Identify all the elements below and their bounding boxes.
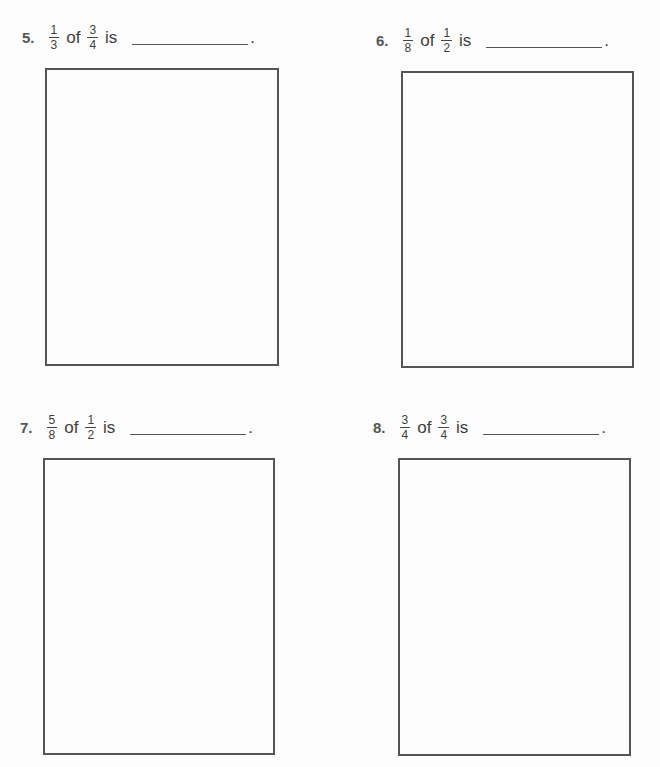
fraction-a: 18 bbox=[403, 27, 414, 54]
fraction-a: 34 bbox=[400, 414, 411, 441]
problem-8-prompt: 8. 34 of 34 is . bbox=[373, 414, 606, 441]
answer-blank[interactable] bbox=[483, 420, 599, 435]
fraction-b: 12 bbox=[85, 414, 96, 441]
problem-number: 8. bbox=[373, 419, 386, 436]
fraction-b: 12 bbox=[441, 27, 452, 54]
answer-blank[interactable] bbox=[130, 420, 246, 435]
fraction-b: 34 bbox=[87, 24, 98, 51]
problem-number: 5. bbox=[22, 29, 35, 46]
drawing-box[interactable] bbox=[401, 71, 634, 368]
problem-number: 6. bbox=[376, 32, 389, 49]
fraction-a: 58 bbox=[47, 414, 58, 441]
answer-blank[interactable] bbox=[132, 30, 248, 45]
drawing-box[interactable] bbox=[43, 458, 275, 755]
drawing-box[interactable] bbox=[45, 68, 279, 366]
drawing-box[interactable] bbox=[398, 458, 631, 756]
problem-number: 7. bbox=[20, 419, 33, 436]
problem-7-prompt: 7. 58 of 12 is . bbox=[20, 414, 253, 441]
fraction-b: 34 bbox=[438, 414, 449, 441]
problem-5-prompt: 5. 13 of 34 is . bbox=[22, 24, 255, 51]
fraction-a: 13 bbox=[49, 24, 60, 51]
problem-6-prompt: 6. 18 of 12 is . bbox=[376, 27, 609, 54]
answer-blank[interactable] bbox=[486, 33, 602, 48]
